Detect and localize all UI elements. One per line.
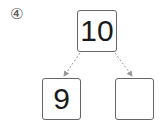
arrow-left — [64, 53, 80, 76]
answer-box[interactable] — [115, 78, 154, 120]
top-number-box: 10 — [77, 10, 117, 52]
left-number-box: 9 — [42, 78, 81, 120]
arrow-right — [115, 53, 132, 76]
